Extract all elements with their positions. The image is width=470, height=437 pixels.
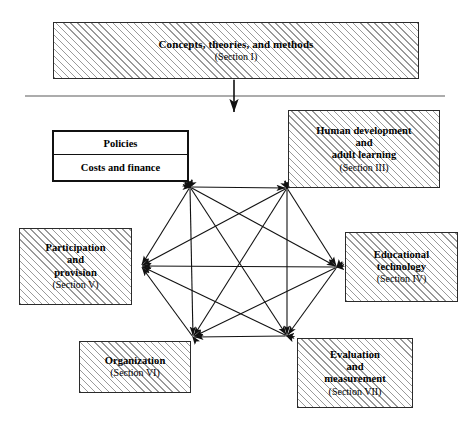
box-evaluation-line2: and: [346, 361, 363, 373]
box-concepts-theories-methods: Concepts, theories, and methods (Section…: [53, 22, 419, 79]
network-edge-evaluation-organization: [195, 336, 286, 337]
network-edge-policies-participation: [142, 188, 189, 264]
box-participation-section: (Section V): [52, 279, 98, 291]
box-concepts-title: Concepts, theories, and methods: [159, 38, 314, 51]
box-evaluation-line1: Evaluation: [330, 349, 380, 361]
box-organization: Organization (Section VI): [79, 341, 191, 393]
box-organization-line1: Organization: [105, 355, 166, 367]
box-participation-line1: Participation: [45, 242, 105, 254]
box-evaluation-line3: measurement: [324, 373, 386, 385]
diagram-canvas: Concepts, theories, and methods (Section…: [0, 0, 470, 437]
box-human-line3: adult learning: [332, 149, 397, 161]
box-edtech-section: (Section IV): [377, 273, 427, 285]
network-edge-human-edtech: [288, 189, 336, 265]
box-edtech-line1: Educational: [374, 249, 429, 261]
network-edge-edtech-evaluation: [288, 268, 336, 335]
network-edge-edtech-organization: [194, 268, 335, 337]
box-concepts-section: (Section I): [215, 51, 258, 63]
network-edge-human-organization: [194, 189, 286, 335]
box-participation-line3: provision: [54, 267, 97, 279]
box-educational-technology: Educational technology (Section IV): [345, 232, 458, 302]
box-human-development-adult-learning: Human development and adult learning (Se…: [288, 110, 440, 188]
network-edge-policies-edtech: [191, 188, 335, 267]
box-human-line1: Human development: [316, 125, 411, 137]
box-participation-and-provision: Participation and provision (Section V): [19, 228, 132, 305]
network-edge-policies-human: [192, 187, 286, 188]
box-evaluation-section: (Section VII): [329, 386, 382, 398]
box-policies-subtitle: Costs and finance: [54, 155, 187, 180]
network-edge-edtech-participation: [143, 266, 336, 267]
box-organization-section: (Section VI): [110, 367, 160, 379]
box-evaluation-and-measurement: Evaluation and measurement (Section VII): [297, 338, 413, 408]
network-edge-policies-evaluation: [191, 188, 286, 334]
box-participation-line2: and: [67, 254, 84, 266]
network-edge-human-participation: [142, 189, 285, 266]
network-edge-organization-participation: [142, 267, 192, 336]
network-edges: [142, 187, 336, 337]
box-edtech-line2: technology: [377, 261, 426, 273]
box-policies-title: Policies: [54, 132, 187, 155]
box-policies-costs-finance: Policies Costs and finance: [52, 130, 189, 182]
box-human-section: (Section III): [339, 162, 388, 174]
network-edge-policies-organization: [190, 189, 193, 336]
network-edge-evaluation-participation: [142, 267, 285, 336]
box-human-line2: and: [355, 137, 372, 149]
